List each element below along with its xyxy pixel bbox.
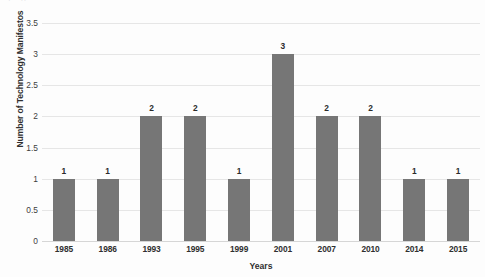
bar[interactable] — [53, 179, 75, 241]
x-tick-label: 1986 — [86, 244, 130, 254]
y-tick-label: 0 — [12, 237, 38, 245]
bar-value-label: 1 — [237, 167, 242, 176]
plot-area: 1122132211 — [42, 23, 480, 241]
bar[interactable] — [140, 116, 162, 241]
bar-series: 1122132211 — [42, 23, 480, 241]
bar-value-label: 3 — [281, 42, 286, 51]
bar[interactable] — [272, 54, 294, 241]
bar[interactable] — [97, 179, 119, 241]
y-tick-label: 3.5 — [12, 19, 38, 27]
x-tick-label: 2010 — [349, 244, 393, 254]
bar-slot[interactable]: 2 — [349, 23, 393, 241]
bar-slot[interactable]: 1 — [42, 23, 86, 241]
bar-value-label: 1 — [412, 167, 417, 176]
bar-value-label: 1 — [105, 167, 110, 176]
x-tick-label: 2001 — [261, 244, 305, 254]
y-tick-label: 1 — [12, 175, 38, 183]
bar-value-label: 2 — [149, 104, 154, 113]
y-tick-label: 1.5 — [12, 144, 38, 152]
bar-chart: ‧ ⁖ ‧ ⁙ ‧ Number of Technology Manifesto… — [0, 0, 485, 277]
bar[interactable] — [403, 179, 425, 241]
y-tick-label: 3 — [12, 50, 38, 58]
bar-slot[interactable]: 1 — [217, 23, 261, 241]
bar-slot[interactable]: 1 — [86, 23, 130, 241]
x-tick-label: 2014 — [392, 244, 436, 254]
bar-value-label: 2 — [193, 104, 198, 113]
bar[interactable] — [316, 116, 338, 241]
scan-artifact-top: ‧ ⁖ ‧ ⁙ ‧ — [0, 0, 485, 7]
bar-slot[interactable]: 2 — [305, 23, 349, 241]
bar-slot[interactable]: 2 — [173, 23, 217, 241]
x-tick-label: 1999 — [217, 244, 261, 254]
y-tick-label: 0.5 — [12, 206, 38, 214]
bar[interactable] — [228, 179, 250, 241]
bar-slot[interactable]: 1 — [436, 23, 480, 241]
bar-slot[interactable]: 2 — [130, 23, 174, 241]
x-tick-label: 1993 — [130, 244, 174, 254]
bar-value-label: 1 — [62, 167, 67, 176]
bar-slot[interactable]: 3 — [261, 23, 305, 241]
x-axis-tick-labels: 1985198619931995199920012007201020142015 — [42, 244, 480, 258]
x-axis-title: Years — [42, 261, 480, 271]
bar[interactable] — [447, 179, 469, 241]
bar-value-label: 1 — [456, 167, 461, 176]
bar[interactable] — [359, 116, 381, 241]
y-tick-label: 2.5 — [12, 81, 38, 89]
x-tick-label: 1995 — [173, 244, 217, 254]
bar-value-label: 2 — [368, 104, 373, 113]
y-axis-tick-labels: 00.511.522.533.5 — [12, 0, 38, 277]
bar-slot[interactable]: 1 — [392, 23, 436, 241]
x-tick-label: 2015 — [436, 244, 480, 254]
bar-value-label: 2 — [324, 104, 329, 113]
x-tick-label: 1985 — [42, 244, 86, 254]
axis-baseline — [42, 241, 480, 242]
bar[interactable] — [184, 116, 206, 241]
x-tick-label: 2007 — [305, 244, 349, 254]
y-tick-label: 2 — [12, 112, 38, 120]
